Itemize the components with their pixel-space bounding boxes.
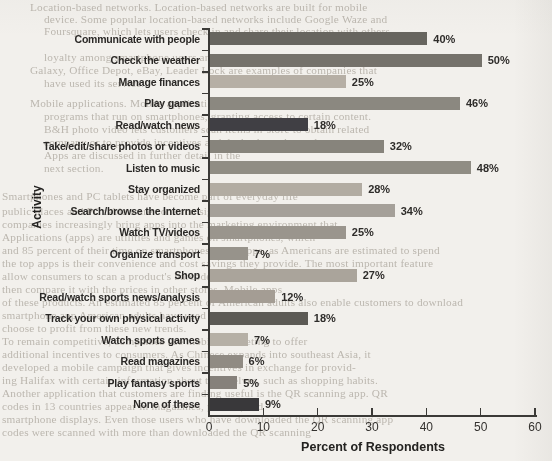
- y-axis-tick: [202, 136, 208, 138]
- bar-value-label: 34%: [401, 200, 423, 222]
- bar-value-label: 48%: [477, 157, 499, 179]
- bar: [210, 269, 357, 282]
- y-axis-tick: [202, 222, 208, 224]
- y-axis-tick: [202, 200, 208, 202]
- bar: [210, 355, 243, 368]
- bar: [210, 97, 460, 110]
- y-axis-tick: [202, 329, 208, 331]
- y-axis-tick: [202, 286, 208, 288]
- x-axis-tick: [480, 408, 482, 415]
- scanned-book-page: Location-based networks. Location-based …: [0, 0, 552, 461]
- y-axis-tick: [202, 179, 208, 181]
- bar-value-label: 28%: [368, 179, 390, 201]
- bar-value-label: 18%: [314, 114, 336, 136]
- bar-value-label: 12%: [281, 286, 303, 308]
- x-tick-label: 30: [357, 420, 387, 434]
- category-label: Check the weather: [0, 50, 200, 72]
- bar: [210, 398, 259, 411]
- category-label: Read magazines: [0, 351, 200, 373]
- bar-value-label: 27%: [363, 265, 385, 287]
- bar-value-label: 5%: [243, 372, 259, 394]
- bar-value-label: 7%: [254, 329, 270, 351]
- y-axis-tick: [202, 157, 208, 159]
- x-axis-line: [208, 415, 537, 417]
- bar-value-label: 9%: [265, 394, 281, 416]
- x-axis-tick: [371, 408, 373, 415]
- bar-value-label: 50%: [488, 50, 510, 72]
- y-axis-tick: [202, 351, 208, 353]
- category-label: Play fantasy sports: [0, 372, 200, 394]
- bar: [210, 333, 248, 346]
- y-axis-tick: [202, 372, 208, 374]
- bar: [210, 161, 471, 174]
- category-label: Track your own physical activity: [0, 308, 200, 330]
- category-label: Communicate with people: [0, 28, 200, 50]
- category-label: Search/browse the Internet: [0, 200, 200, 222]
- x-tick-label: 0: [194, 420, 224, 434]
- category-label: Read/watch news: [0, 114, 200, 136]
- y-axis-tick: [202, 50, 208, 52]
- category-label: Take/edit/share photos or videos: [0, 136, 200, 158]
- category-label: Listen to music: [0, 157, 200, 179]
- category-label: Watch TV/videos: [0, 222, 200, 244]
- bar: [210, 183, 362, 196]
- bar-value-label: 25%: [352, 71, 374, 93]
- bar: [210, 118, 308, 131]
- bar: [210, 247, 248, 260]
- x-tick-label: 20: [303, 420, 333, 434]
- y-axis-tick: [202, 71, 208, 73]
- y-axis-tick: [202, 93, 208, 95]
- category-label: None of these: [0, 394, 200, 416]
- y-axis-tick: [202, 394, 208, 396]
- y-axis-tick: [202, 265, 208, 267]
- x-tick-label: 60: [520, 420, 550, 434]
- bar: [210, 204, 395, 217]
- bar-value-label: 40%: [433, 28, 455, 50]
- category-label: Watch sports games: [0, 329, 200, 351]
- x-axis-tick: [263, 408, 265, 415]
- bar: [210, 140, 384, 153]
- bar-value-label: 7%: [254, 243, 270, 265]
- bar: [210, 32, 427, 45]
- bar-value-label: 46%: [466, 93, 488, 115]
- bar-chart: Activity 0102030405060Communicate with p…: [0, 0, 552, 461]
- bar: [210, 75, 346, 88]
- x-axis-title: Percent of Respondents: [232, 440, 514, 454]
- bar-value-label: 25%: [352, 222, 374, 244]
- bar-value-label: 18%: [314, 308, 336, 330]
- category-label: Organize transport: [0, 243, 200, 265]
- category-label: Manage finances: [0, 71, 200, 93]
- category-label: Play games: [0, 93, 200, 115]
- bar: [210, 312, 308, 325]
- category-label: Stay organized: [0, 179, 200, 201]
- x-axis-tick: [426, 408, 428, 415]
- category-label: Read/watch sports news/analysis: [0, 286, 200, 308]
- bar: [210, 290, 275, 303]
- y-axis-tick: [202, 243, 208, 245]
- bar-value-label: 32%: [390, 136, 412, 158]
- y-axis-tick: [202, 114, 208, 116]
- bar: [210, 376, 237, 389]
- category-label: Shop: [0, 265, 200, 287]
- x-tick-label: 10: [248, 420, 278, 434]
- y-axis-tick: [202, 28, 208, 30]
- x-axis-tick: [317, 408, 319, 415]
- x-tick-label: 40: [411, 420, 441, 434]
- bar: [210, 226, 346, 239]
- y-axis-tick: [202, 308, 208, 310]
- x-axis-tick: [534, 408, 536, 415]
- bar: [210, 54, 482, 67]
- x-tick-label: 50: [466, 420, 496, 434]
- bar-value-label: 6%: [249, 351, 265, 373]
